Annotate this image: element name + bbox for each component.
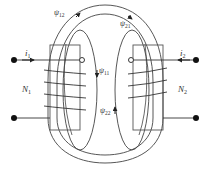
terminal-right-top [193,57,199,63]
polarity-marker-left [80,58,85,63]
label-psi22: ψ22 [100,106,111,116]
right-coil-windings [128,68,167,98]
terminal-left-top [11,57,17,63]
label-i1: i1 [25,48,31,59]
flux-line-right-inner [139,44,147,135]
label-psi12: ψ12 [54,8,65,18]
polarity-marker-right [129,58,134,63]
label-n2: N2 [177,84,187,95]
label-n1: N1 [21,84,31,95]
flux-loop-psi22 [115,30,149,150]
label-psi21: ψ21 [120,19,131,29]
coupled-coils-diagram: i1 i2 N1 N2 ψ12 ψ21 ψ11 ψ22 [0,0,210,170]
label-psi11: ψ11 [99,66,110,76]
arrow-psi21 [128,16,132,19]
terminal-left-bottom [11,115,17,121]
label-i2: i2 [180,48,186,59]
terminal-right-bottom [193,115,199,121]
right-coil-core [133,45,163,130]
